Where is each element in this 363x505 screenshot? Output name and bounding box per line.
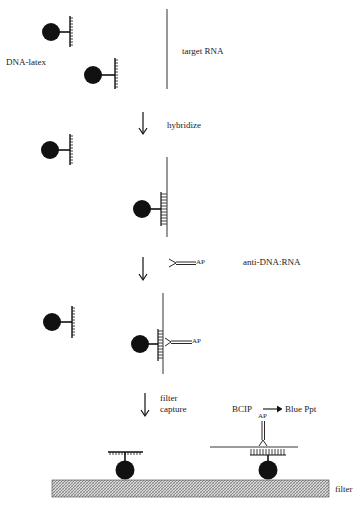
label-bcip: BCIP (232, 405, 252, 414)
antibody-bound-complex (131, 293, 192, 374)
captured-detected-complex (210, 421, 298, 480)
antibody-icon (169, 259, 196, 267)
hybrid-complex (133, 157, 167, 237)
label-ap-filter: AP (258, 413, 267, 420)
label-capture-step: capture (160, 405, 186, 414)
label-target-rna: target RNA (182, 47, 224, 56)
label-ap-free: AP (196, 259, 205, 266)
down-arrow-icon (139, 257, 147, 280)
down-arrow-icon (141, 393, 149, 416)
label-ap-bound: AP (192, 338, 201, 345)
dna-latex-bead-unbound (43, 306, 75, 338)
diagram-canvas (0, 0, 363, 505)
label-anti-dna-rna: anti-DNA:RNA (243, 258, 301, 267)
captured-unhybridized-bead (108, 452, 143, 480)
down-arrow-icon (139, 112, 147, 134)
label-dna-latex: DNA-latex (6, 58, 46, 67)
filter-membrane (52, 480, 329, 497)
label-hybridize: hybridize (167, 121, 201, 130)
label-filter: filter (335, 485, 353, 494)
label-blue-ppt: Blue Ppt (285, 405, 316, 414)
dna-latex-bead-unbound (41, 134, 73, 165)
label-filter-step: filter (160, 394, 178, 403)
dna-latex-bead-2 (84, 58, 118, 89)
dna-latex-bead-1 (42, 16, 73, 47)
